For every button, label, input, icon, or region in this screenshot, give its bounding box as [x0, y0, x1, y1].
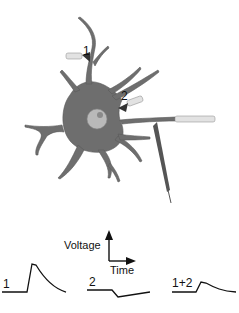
- nucleolus: [97, 112, 103, 118]
- neuron: [25, 17, 175, 182]
- trace-1: [2, 264, 66, 292]
- recording-electrode: [153, 122, 171, 203]
- nucleus: [87, 109, 107, 129]
- synapse-2-label: 2: [121, 90, 128, 102]
- time-axis-label: Time: [110, 265, 134, 276]
- voltage-axis-label: Voltage: [64, 240, 101, 251]
- trace-1-label: 1: [3, 278, 10, 290]
- trace-2-label: 2: [89, 276, 96, 288]
- trace-2: [87, 290, 150, 297]
- axon-electrode: [175, 116, 215, 122]
- trace-1-plus-2-label: 1+2: [172, 277, 192, 289]
- synapse-1-label: 1: [83, 45, 90, 57]
- voltage-time-axes: [105, 230, 136, 265]
